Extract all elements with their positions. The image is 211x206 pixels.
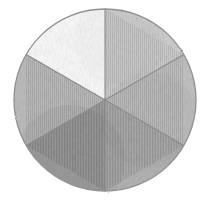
pie-chart-figure <box>0 0 211 206</box>
pie-chart-svg <box>0 0 211 206</box>
